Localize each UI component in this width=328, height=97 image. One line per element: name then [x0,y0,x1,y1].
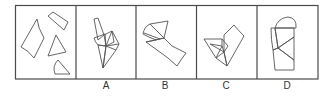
option-d-label[interactable]: D [277,80,297,92]
kite-piece [21,19,44,58]
puzzle-figure: A B C D [0,0,328,97]
option-c-label[interactable]: C [216,80,236,92]
option-b-figure[interactable] [143,21,186,66]
sector-piece [54,60,70,74]
option-a-figure[interactable] [94,18,119,68]
panel-frame [16,6,319,80]
triangle-piece [48,35,66,56]
option-d-figure[interactable] [271,17,296,70]
parallelogram-piece [48,12,68,30]
question-panel [21,12,70,74]
option-b-label[interactable]: B [155,80,175,92]
option-a-label[interactable]: A [96,80,116,92]
option-c-figure[interactable] [204,25,244,66]
